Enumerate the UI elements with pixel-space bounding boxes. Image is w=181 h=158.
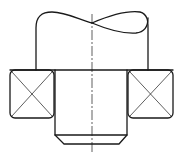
lower-shaft [55, 70, 127, 144]
shaft-bearing-diagram [0, 0, 181, 158]
lower-shaft-outline [55, 70, 127, 144]
left-bearing [10, 70, 54, 118]
drawing-canvas: Shaft with rolling bearings (section vie… [0, 0, 181, 158]
right-bearing [128, 70, 173, 118]
